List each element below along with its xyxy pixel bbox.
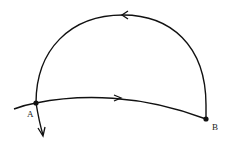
point-b-label: B <box>212 122 218 132</box>
lower-curve <box>14 98 206 119</box>
diagram-canvas: A B <box>0 0 230 147</box>
point-a-label: A <box>27 109 34 119</box>
point-b-dot <box>203 116 208 121</box>
path-diagram: A B <box>0 0 230 147</box>
upper-arc <box>36 15 206 119</box>
point-a-dot <box>33 100 38 105</box>
